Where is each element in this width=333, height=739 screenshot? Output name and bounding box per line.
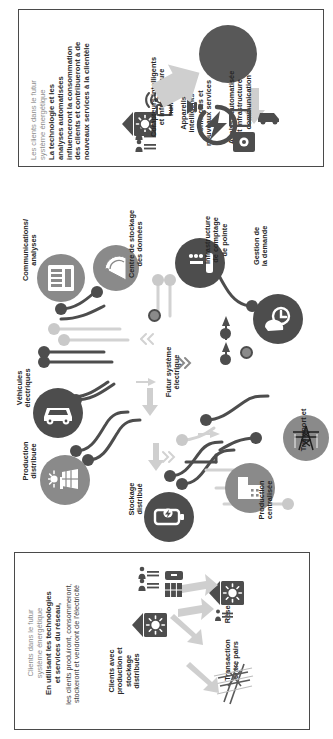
connector-dot [91, 286, 103, 298]
connector-dot [38, 356, 50, 368]
battery-storage-icon [152, 504, 186, 530]
figure-canvas: Les clients dans le futur système énergé… [0, 0, 333, 739]
node-electric-vehicles-icon-badge [33, 388, 83, 438]
label-distributed-storage: Stockage distribué [128, 458, 145, 540]
node-distributed-storage-icon-badge [144, 492, 194, 542]
panel-top-title: Les clients dans le futur système énergé… [30, 10, 47, 160]
node-demand-management-icon-badge [253, 294, 303, 344]
car-icon [41, 398, 75, 428]
connector-dot [200, 414, 212, 426]
panel-bottom-body-regular: les clients produiront, consommeront, st… [65, 566, 82, 722]
chevron-accent-1-icon [140, 332, 156, 346]
server-rack-icon [46, 263, 76, 293]
label-demand-management: Gestion de la demande [253, 206, 270, 286]
label-transmission: Transport et [300, 390, 308, 470]
person-bottom-icon [214, 608, 236, 622]
connector-dot-light [152, 274, 164, 286]
connector-node-ring [148, 309, 161, 322]
connector-dot-light [176, 434, 188, 446]
panel-bottom-body-bold: En utilisant les technologies et service… [45, 568, 63, 718]
solar-panel-icon [48, 465, 82, 495]
connector-dot-light [48, 323, 60, 335]
connector-dot [164, 470, 176, 482]
prosumer-home-1-icon [129, 604, 171, 646]
connector-dot [220, 328, 231, 339]
connector-dot [176, 478, 188, 490]
grid-tower-icon [208, 656, 254, 708]
chevron-accent-3-icon [160, 450, 178, 464]
connector-dot [250, 432, 262, 444]
label-ami: Infrastructure de comptage de pointe [204, 190, 229, 290]
connector-dot-light [282, 498, 294, 510]
panel-top-body: La technologie et les analyses automatis… [48, 10, 92, 160]
people-bottom-icon [137, 565, 163, 591]
car-small-icon [256, 107, 282, 125]
connector-dot [220, 354, 231, 365]
connector-dot-light [58, 334, 70, 346]
appliance-icon [232, 131, 256, 153]
panel-bottom-title: Clients dans le futur système énergétiqu… [27, 568, 44, 718]
solar-battery-icon [163, 570, 185, 600]
label-electric-vehicles: Véhicules électriques [16, 348, 33, 428]
node-distributed-generation-icon-badge [40, 455, 90, 505]
tablet-icon [229, 109, 251, 127]
label-future-electric-system: Futur système électrique [165, 324, 182, 420]
label-communications: Communications/ analyses [22, 200, 39, 300]
connector-dot [55, 303, 67, 315]
connector-node-ring [240, 346, 253, 359]
hand-switch-icon [262, 303, 294, 335]
flow-arrow-down-1-icon [142, 388, 158, 416]
connector-dot-light [164, 274, 176, 286]
label-data-center: Centre de stockage des données [128, 194, 145, 294]
label-centralized-generation: Production centralisée [258, 460, 275, 540]
label-distributed-generation: Production distribuée [22, 420, 39, 502]
node-communications-icon-badge [37, 254, 85, 302]
plug-icon [185, 96, 207, 118]
